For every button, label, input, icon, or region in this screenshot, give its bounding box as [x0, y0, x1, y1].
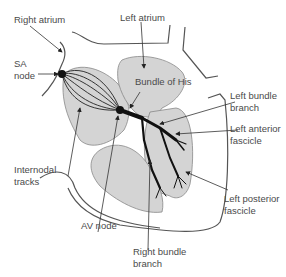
label-internodal-tracks-2: tracks: [14, 176, 39, 187]
label-left-posterior-fascicle-1: Left posterior: [224, 193, 279, 204]
label-left-anterior-fascicle-1: Left anterior: [230, 123, 281, 134]
label-right-bundle-branch-1: Right bundle: [133, 246, 186, 257]
label-left-atrium: Left atrium: [120, 12, 165, 23]
sa-node: [58, 70, 66, 78]
label-left-bundle-branch-1: Left bundle: [230, 90, 277, 101]
label-left-anterior-fascicle-2: fascicle: [230, 135, 262, 146]
label-sa-node-1: SA: [14, 58, 27, 69]
label-right-bundle-branch-2: branch: [133, 258, 162, 269]
label-sa-node-2: node: [14, 70, 35, 81]
label-left-posterior-fascicle-2: fascicle: [224, 205, 256, 216]
label-left-bundle-branch-2: branch: [230, 102, 259, 113]
label-internodal-tracks-1: Internodal: [14, 164, 56, 175]
label-bundle-of-his: Bundle of His: [135, 76, 192, 87]
av-node: [116, 106, 124, 114]
leader-lines: [30, 22, 238, 250]
label-right-atrium: Right atrium: [14, 14, 65, 25]
label-av-node: AV node: [81, 220, 117, 231]
